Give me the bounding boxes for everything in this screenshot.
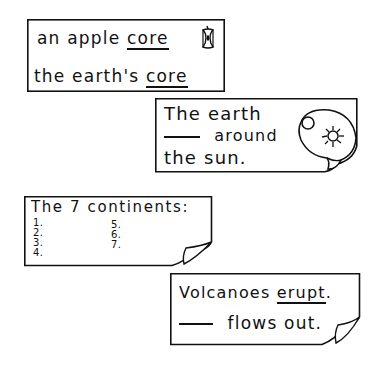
apple-core-icon: [200, 25, 216, 51]
card-revolves-line-1: The earth: [164, 103, 262, 124]
underlined-word: core: [146, 66, 188, 88]
continents-list-right: 5. 6. 7.: [111, 220, 122, 250]
underlined-word: core: [127, 28, 169, 50]
card-continents-title: The 7 continents:: [31, 198, 189, 216]
text-segment: around: [208, 126, 278, 145]
text-segment: Volcanoes: [179, 283, 277, 302]
list-number: 4.: [33, 248, 44, 258]
card-volcanoes-line-1: Volcanoes erupt.: [179, 283, 332, 302]
card-revolves-line-3: the sun.: [164, 147, 247, 168]
card-core: an apple core the earth's core: [27, 19, 225, 92]
list-number: 7.: [111, 240, 122, 250]
card-volcanoes: Volcanoes erupt. flows out.: [170, 273, 361, 346]
text-segment: the earth's: [34, 66, 146, 86]
card-revolves-line-2: around: [164, 126, 278, 145]
fill-in-blank: [179, 323, 213, 325]
fill-in-blank: [164, 136, 200, 138]
card-volcanoes-line-2: flows out.: [179, 313, 322, 333]
text-segment: flows out.: [221, 313, 322, 333]
continents-list-left: 1. 2. 3. 4.: [33, 218, 44, 258]
card-core-line-2: the earth's core: [34, 66, 188, 86]
text-segment: .: [326, 283, 332, 302]
text-segment: an apple: [37, 28, 127, 48]
underlined-word: erupt: [277, 283, 326, 304]
card-core-line-1: an apple core: [37, 28, 169, 48]
sun-and-earth-icon: [293, 106, 359, 172]
card-continents: The 7 continents: 1. 2. 3. 4. 5. 6. 7.: [24, 196, 213, 267]
card-revolves: The earth around the sun.: [155, 98, 358, 173]
